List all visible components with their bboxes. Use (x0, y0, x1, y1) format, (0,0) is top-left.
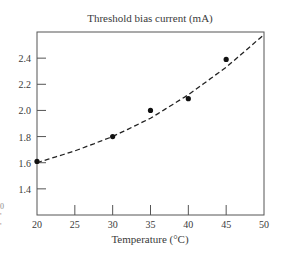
x-axis: 20253035404550 (32, 205, 269, 230)
x-tick-label: 40 (183, 219, 193, 230)
y-tick-label: 2.4 (19, 53, 32, 64)
x-tick-label: 20 (32, 219, 42, 230)
x-tick-label: 50 (259, 219, 269, 230)
chart-title: Threshold bias current (mA) (87, 12, 213, 25)
y-tick-label: 1.4 (19, 184, 32, 195)
y-tick-label: 1.6 (19, 158, 32, 169)
left-mark: ' (0, 212, 6, 222)
data-points (34, 57, 228, 164)
data-point (186, 96, 191, 101)
y-tick-label: 2.0 (19, 105, 32, 116)
y-tick-label: 1.8 (19, 132, 32, 143)
chart: Threshold bias current (mA) 1.41.61.82.0… (0, 0, 281, 253)
left-edge-marks: 0 ' ' (0, 202, 6, 232)
data-point (224, 57, 229, 62)
left-mark: ' (0, 222, 6, 232)
data-point (34, 159, 39, 164)
y-axis: 1.41.61.82.02.22.4 (19, 53, 47, 195)
left-mark: 0 (0, 202, 6, 212)
data-point (110, 134, 115, 139)
data-point (148, 108, 153, 113)
x-tick-label: 30 (108, 219, 118, 230)
fit-curve (37, 35, 264, 163)
x-axis-label: Temperature (°C) (111, 233, 189, 246)
x-tick-label: 45 (221, 219, 231, 230)
plot-frame (37, 32, 264, 215)
y-tick-label: 2.2 (19, 79, 32, 90)
x-tick-label: 25 (70, 219, 80, 230)
x-tick-label: 35 (146, 219, 156, 230)
